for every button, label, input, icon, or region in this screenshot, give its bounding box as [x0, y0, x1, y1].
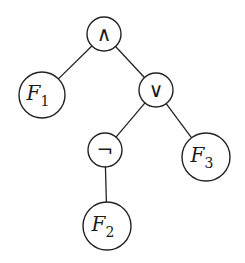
edge-and-f1 — [58, 46, 91, 79]
node-f1: F1 — [19, 72, 65, 118]
edge-or-f3 — [166, 104, 191, 138]
node-not: ¬ — [88, 133, 122, 167]
node-or: ∨ — [139, 73, 173, 107]
node-label: ∧ — [97, 22, 112, 46]
node-label: ∨ — [149, 78, 164, 102]
node-f3: F3 — [182, 133, 230, 181]
node-f2: F2 — [83, 202, 131, 250]
node-and: ∧ — [87, 17, 121, 51]
expression-tree: ∧F1∨¬F3F2 — [0, 0, 245, 263]
nodes: ∧F1∨¬F3F2 — [19, 17, 230, 250]
edge-not-f2 — [105, 167, 106, 202]
edges — [58, 46, 191, 202]
edge-or-not — [116, 103, 145, 137]
node-label: ¬ — [97, 138, 114, 162]
edge-and-or — [116, 46, 145, 77]
